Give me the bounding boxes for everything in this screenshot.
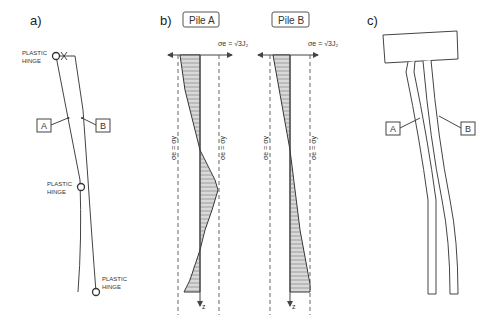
hinge-label-mid-line2: HINGE — [47, 189, 66, 195]
pile-a-depth-label: z — [202, 303, 206, 310]
pile-b-yield-right-label: σe = σy — [310, 135, 318, 160]
figure-canvas: a) PLASTIC HINGE PLASTIC HINGE PLASTIC H… — [0, 0, 501, 330]
panel-b-label: b) — [160, 13, 172, 28]
panel-c-label: c) — [367, 13, 378, 28]
pile-a-tag: A — [390, 124, 396, 134]
pile-a-deformed-line — [56, 56, 81, 292]
panel-c: c) A B — [367, 13, 475, 294]
hinge-label-mid-line1: PLASTIC — [47, 181, 73, 187]
panel-a: a) PLASTIC HINGE PLASTIC HINGE PLASTIC H… — [22, 13, 128, 296]
pile-b-deformed-line — [75, 56, 96, 292]
hinge-label-bottom-line2: HINGE — [102, 284, 121, 290]
pile-a-formula: σe = √3J₂ — [218, 40, 248, 47]
pile-b-yield-left-label: σe = σy — [262, 135, 270, 160]
panel-a-label: a) — [30, 13, 42, 28]
pile-b-formula: σe = √3J₂ — [308, 40, 338, 47]
panel-b: b) Pile A Pile B σe = √3J₂ σe = σy σe = … — [160, 12, 338, 315]
plastic-hinge-icon — [53, 53, 60, 60]
plastic-hinge-icon — [93, 289, 100, 296]
hinge-label-top-line1: PLASTIC — [22, 50, 48, 56]
pile-a-yield-right-label: σe = σy — [219, 135, 227, 160]
pile-b-tag: B — [100, 121, 106, 131]
pile-a-title: Pile A — [189, 15, 215, 26]
plastic-hinge-icon — [78, 184, 85, 191]
pile-cap — [383, 31, 458, 63]
pile-b-stress-diagram: σe = √3J₂ σe = σy σe = σy — [258, 40, 338, 315]
pile-a-stress-diagram: σe = √3J₂ σe = σy σe = σy — [168, 40, 248, 315]
pile-a-yield-left-label: σe = σy — [170, 135, 178, 160]
hinge-label-bottom-line1: PLASTIC — [102, 276, 128, 282]
pile-a-tag: A — [41, 121, 47, 131]
pile-b-tag: B — [465, 124, 471, 134]
pile-b-depth-label: z — [292, 303, 296, 310]
pile-b-title: Pile B — [278, 15, 304, 26]
hinge-label-top-line2: HINGE — [22, 58, 41, 64]
